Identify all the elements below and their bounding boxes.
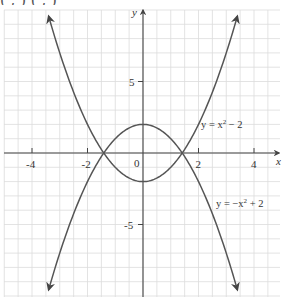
equation-label-downward-parabola: y = −x2 + 2: [216, 197, 264, 209]
x-tick-label: 4: [251, 158, 257, 170]
y-tick-label: 5: [129, 76, 135, 88]
x-tick-label: -4: [26, 158, 36, 170]
x-tick-label: 2: [196, 158, 202, 170]
equation-label-upward-parabola: y = x2 − 2: [201, 118, 243, 130]
y-axis-label: y: [131, 6, 137, 18]
y-tick-label: -5: [124, 219, 134, 231]
x-axis-label: x: [275, 155, 281, 167]
origin-label: 0: [134, 157, 140, 169]
x-tick-label: -2: [82, 158, 91, 170]
chart: -4-2245-50 xyy = x2 − 2y = −x2 + 2: [0, 0, 282, 297]
